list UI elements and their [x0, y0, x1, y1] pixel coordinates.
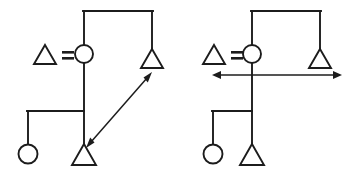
equals-icon-bar-top: [231, 51, 243, 54]
child-female-circle-icon: [204, 145, 223, 164]
kinship-figure-canvas: [0, 0, 362, 180]
child-male-triangle-icon: [72, 144, 96, 165]
kinship-figure: [0, 0, 362, 180]
legend-group-right: [203, 45, 243, 64]
child-male-triangle-icon: [240, 144, 264, 165]
child-female-circle-icon: [19, 145, 38, 164]
ego-female-circle-icon: [75, 45, 93, 63]
equals-icon-bar-bottom: [62, 57, 74, 60]
diagonal-double-arrow: [86, 72, 152, 148]
right-kinship-diagram: [203, 11, 342, 165]
horizontal-arrowhead-left: [212, 71, 221, 79]
horizontal-double-arrow: [212, 71, 342, 79]
legend-male-triangle-icon: [34, 45, 56, 64]
diagonal-arrow-shaft: [91, 78, 147, 142]
legend-group-left: [34, 45, 74, 64]
horizontal-arrowhead-right: [333, 71, 342, 79]
spouse-male-triangle-icon: [141, 49, 163, 68]
left-kinship-diagram: [19, 11, 164, 165]
ego-female-circle-icon: [243, 45, 261, 63]
spouse-male-triangle-icon: [309, 49, 331, 68]
legend-male-triangle-icon: [203, 45, 225, 64]
equals-icon-bar-top: [62, 51, 74, 54]
equals-icon-bar-bottom: [231, 57, 243, 60]
